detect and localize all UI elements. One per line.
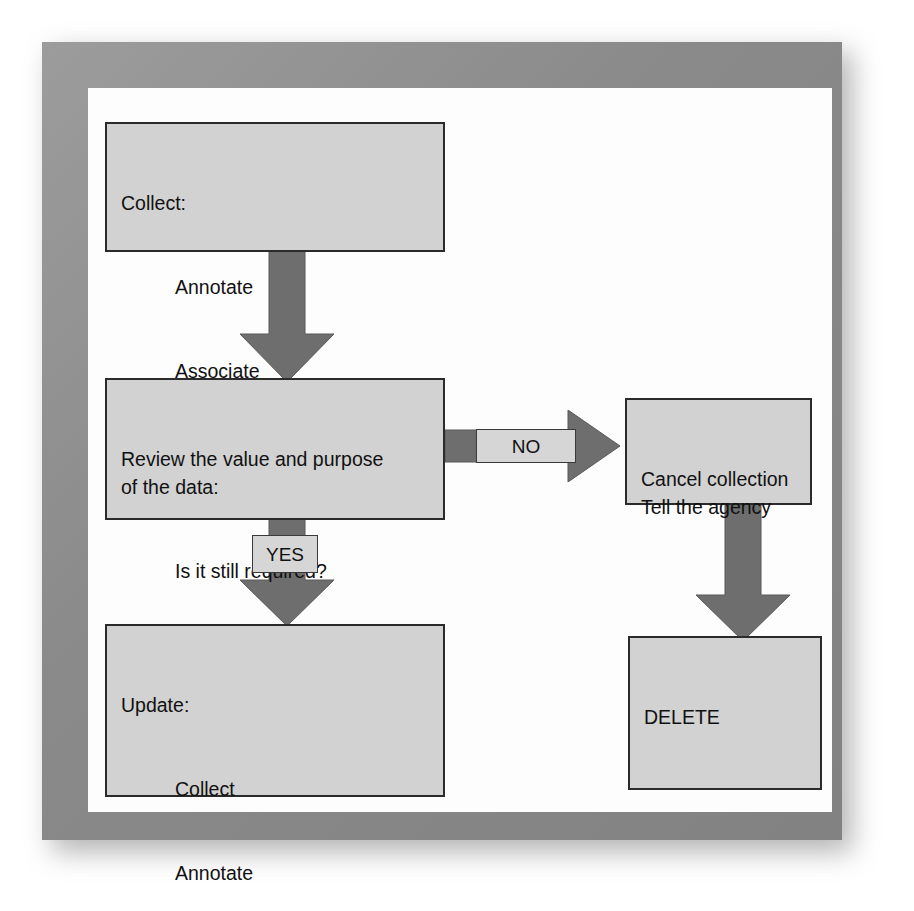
- node-cancel-collection[interactable]: Cancel collection Tell the agency: [625, 398, 812, 505]
- node-review-lead: Review the value and purpose of the data…: [121, 445, 443, 501]
- node-update-item-0: Collect: [121, 775, 443, 803]
- edge-label-yes: YES: [252, 535, 318, 573]
- node-delete-lead: DELETE: [644, 703, 820, 731]
- edge-label-no: NO: [476, 429, 576, 463]
- node-collect-lead: Collect:: [121, 189, 443, 217]
- node-delete[interactable]: DELETE: [628, 636, 822, 790]
- node-collect-item-0: Annotate: [121, 273, 443, 301]
- node-update-lead: Update:: [121, 691, 443, 719]
- diagram-canvas: YES NO Collect: Annotate Associate Distr…: [88, 88, 832, 812]
- node-update-item-1: Annotate: [121, 859, 443, 887]
- node-review[interactable]: Review the value and purpose of the data…: [105, 378, 445, 520]
- node-cancel-lead: Cancel collection Tell the agency: [641, 465, 810, 521]
- node-update[interactable]: Update: Collect Annotate Check associati…: [105, 624, 445, 797]
- diagram-page: YES NO Collect: Annotate Associate Distr…: [0, 0, 914, 911]
- node-collect[interactable]: Collect: Annotate Associate Distribute: [105, 122, 445, 252]
